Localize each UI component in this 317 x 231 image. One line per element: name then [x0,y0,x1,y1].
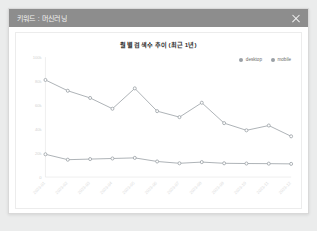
line-chart-svg: 020k40k60k80k100k2023-012023-022023-0320… [20,51,297,206]
data-point [290,162,293,165]
y-axis-tick-label: 60k [35,103,42,108]
data-point [200,101,203,104]
x-axis-tick-label: 2023-08 [188,180,203,195]
x-axis-tick-label: 2023-12 [278,180,293,195]
data-point [223,162,226,165]
data-point [245,129,248,132]
data-point [133,156,136,159]
x-axis-tick-label: 2023-02 [54,180,69,195]
data-point [66,89,69,92]
y-axis-tick-label: 80k [35,79,42,84]
data-point [245,162,248,165]
y-axis-tick-label: 40k [35,127,42,132]
x-axis-tick-label: 2023-10 [233,180,248,195]
plot-wrap: 020k40k60k80k100k2023-012023-022023-0320… [20,51,297,206]
series-mobile [44,153,293,166]
x-axis-tick-label: 2023-09 [211,180,226,195]
x-axis-tick-label: 2023-05 [121,180,136,195]
data-point [267,162,270,165]
chart-area: desktop mobile 020k40k60k80k100k2023-012… [20,51,297,206]
data-point [44,153,47,156]
y-axis-tick-label: 100k [33,55,43,60]
x-axis-tick-label: 2023-06 [144,180,159,195]
legend-label-mobile: mobile [277,57,291,62]
data-point [178,162,181,165]
data-point [178,116,181,119]
data-point [89,96,92,99]
data-point [156,160,159,163]
legend-item-mobile[interactable]: mobile [271,57,291,62]
data-point [223,122,226,125]
y-axis-tick-label: 20k [35,151,42,156]
data-point [156,110,159,113]
data-point [133,87,136,90]
data-point [267,124,270,127]
x-axis-tick-label: 2023-07 [166,180,181,195]
data-point [89,158,92,161]
legend-item-desktop[interactable]: desktop [239,57,262,62]
series-line-mobile [45,154,291,164]
chart-card: 월별 검색수 추이 (최근 1년) desktop mobile 020k40k… [15,32,302,209]
data-point [111,157,114,160]
modal-body: 월별 검색수 추이 (최근 1년) desktop mobile 020k40k… [9,27,308,213]
x-axis-tick-label: 2023-11 [256,180,270,195]
y-axis-tick-label: 0 [39,175,42,180]
close-icon[interactable] [290,12,302,24]
data-point [66,158,69,161]
chart-title: 월별 검색수 추이 (최근 1년) [20,40,297,49]
data-point [44,78,47,81]
x-axis-tick-label: 2023-03 [77,180,92,195]
data-point [290,135,293,138]
modal-header: 키워드 : 머신러닝 [9,9,308,27]
legend-label-desktop: desktop [246,57,262,62]
chart-legend: desktop mobile [239,57,291,62]
modal-title: 키워드 : 머신러닝 [17,13,67,23]
data-point [200,161,203,164]
series-line-desktop [45,80,291,136]
x-axis-tick-label: 2023-01 [32,180,47,195]
data-point [111,107,114,110]
x-axis-tick-label: 2023-04 [99,180,114,195]
legend-swatch-mobile [271,58,275,62]
series-desktop [44,78,293,137]
keyword-detail-modal: 키워드 : 머신러닝 월별 검색수 추이 (최근 1년) desktop mob… [8,8,309,214]
legend-swatch-desktop [239,58,243,62]
